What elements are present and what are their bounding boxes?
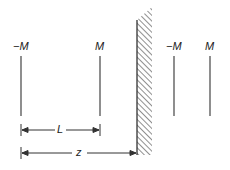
charge-lines bbox=[21, 56, 210, 116]
image-label-M: M bbox=[205, 41, 214, 52]
L-label: L bbox=[57, 124, 63, 135]
charge-label-M: M bbox=[95, 41, 104, 52]
diagram-canvas bbox=[0, 0, 230, 170]
z-label: z bbox=[76, 147, 82, 158]
mirror bbox=[137, 7, 152, 155]
image-label-neg-M: −M bbox=[166, 41, 182, 52]
charge-label-neg-M: −M bbox=[13, 41, 29, 52]
